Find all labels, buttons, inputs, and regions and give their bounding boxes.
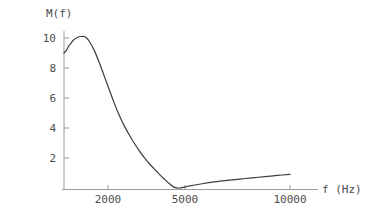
- y-tick-label-6: 6: [30, 93, 56, 104]
- axes-group: [62, 31, 318, 190]
- y-tick-label-8: 8: [30, 63, 56, 74]
- x-tick-label-2000: 2000: [78, 194, 138, 205]
- y-tick-label-2: 2: [30, 153, 56, 164]
- y-tick-marks: [64, 38, 69, 158]
- y-tick-label-4: 4: [30, 123, 56, 134]
- x-tick-label-5000: 5000: [155, 194, 215, 205]
- data-series-curve: [64, 36, 290, 188]
- x-tick-label-10000: 10000: [260, 194, 320, 205]
- x-axis-title: f (Hz): [322, 184, 362, 195]
- chart-canvas: 10 8 6 4 2 2000 5000 10000 M(f) f (Hz): [0, 0, 378, 222]
- y-tick-label-10: 10: [30, 33, 56, 44]
- y-axis-title: M(f): [46, 8, 73, 19]
